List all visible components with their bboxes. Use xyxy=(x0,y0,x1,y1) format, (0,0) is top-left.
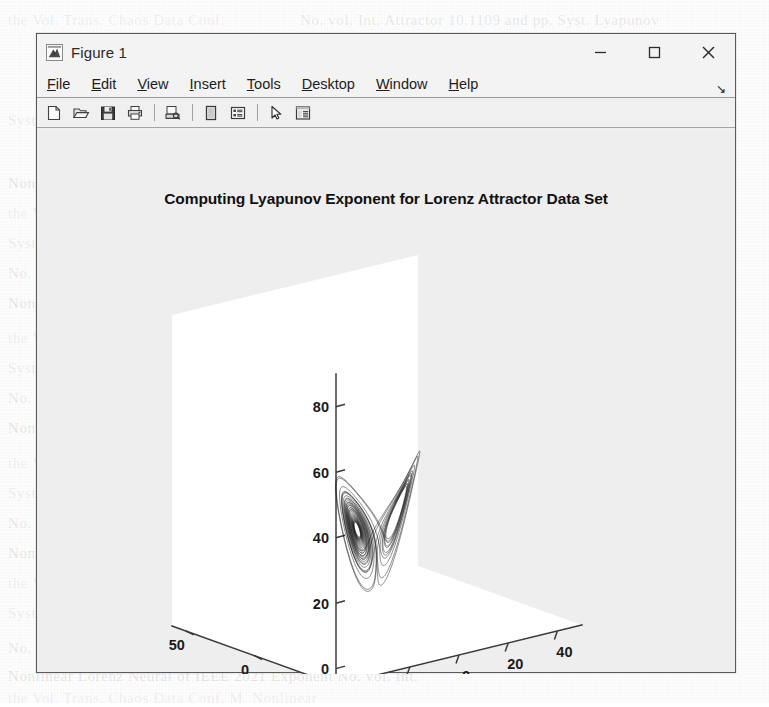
minimize-icon[interactable] xyxy=(573,34,627,71)
axis-tick-label: 0 xyxy=(462,668,470,674)
axis-tick-label: 60 xyxy=(313,465,329,481)
axis-tick-label: 40 xyxy=(556,644,572,660)
toolbar xyxy=(37,98,735,128)
ghost-page-text: the Vol. Trans. Chaos Data Conf. xyxy=(8,12,225,29)
open-file-icon[interactable] xyxy=(68,101,94,125)
menu-bar: File Edit View Insert Tools Desktop Wind… xyxy=(37,71,735,98)
menu-item-tools[interactable]: Tools xyxy=(247,76,281,92)
save-figure-icon[interactable] xyxy=(95,101,121,125)
print-preview-icon[interactable] xyxy=(160,101,186,125)
toolbar-separator xyxy=(257,104,258,121)
menu-overflow-icon[interactable]: ↘ xyxy=(716,83,726,95)
matlab-membrane-icon xyxy=(46,44,63,61)
ghost-page-text: the Vol. Trans. Chaos Data Conf. M. Nonl… xyxy=(8,690,317,707)
edit-plot-pointer-icon[interactable] xyxy=(263,101,289,125)
menu-item-window[interactable]: Window xyxy=(376,76,428,92)
window-title: Figure 1 xyxy=(71,44,127,61)
figure-canvas: Computing Lyapunov Exponent for Lorenz A… xyxy=(37,129,735,672)
property-inspector-icon[interactable] xyxy=(290,101,316,125)
axis-tick-label: 80 xyxy=(313,399,329,415)
menu-item-view[interactable]: View xyxy=(137,76,168,92)
close-icon[interactable] xyxy=(681,34,735,71)
menu-item-help[interactable]: Help xyxy=(449,76,479,92)
title-bar: Figure 1 xyxy=(37,34,735,71)
menu-item-edit[interactable]: Edit xyxy=(91,76,116,92)
new-figure-icon[interactable] xyxy=(41,101,67,125)
toolbar-separator xyxy=(154,104,155,121)
window-controls xyxy=(573,34,735,71)
menu-item-desktop[interactable]: Desktop xyxy=(302,76,355,92)
axis-tick-label: 20 xyxy=(313,596,329,612)
lorenz-attractor-axes: 020406080500-50-40-2002040 xyxy=(37,129,737,674)
menu-item-insert[interactable]: Insert xyxy=(190,76,226,92)
insert-legend-icon[interactable] xyxy=(225,101,251,125)
axis-tick-label: 40 xyxy=(313,530,329,546)
matlab-figure-window: Figure 1 File Edit View xyxy=(36,33,736,673)
axis-tick-label: 50 xyxy=(169,637,185,653)
axis-tick-label: 0 xyxy=(241,662,249,675)
maximize-icon[interactable] xyxy=(627,34,681,71)
axis-tick-label: 20 xyxy=(507,656,523,672)
ghost-page-text: No. vol. Int. Attractor 10.1109 and pp. … xyxy=(300,12,659,29)
print-figure-icon[interactable] xyxy=(122,101,148,125)
toolbar-separator xyxy=(192,104,193,121)
menu-item-file[interactable]: File xyxy=(47,76,70,92)
axis-tick-label: 0 xyxy=(321,661,329,674)
insert-colorbar-icon[interactable] xyxy=(198,101,224,125)
